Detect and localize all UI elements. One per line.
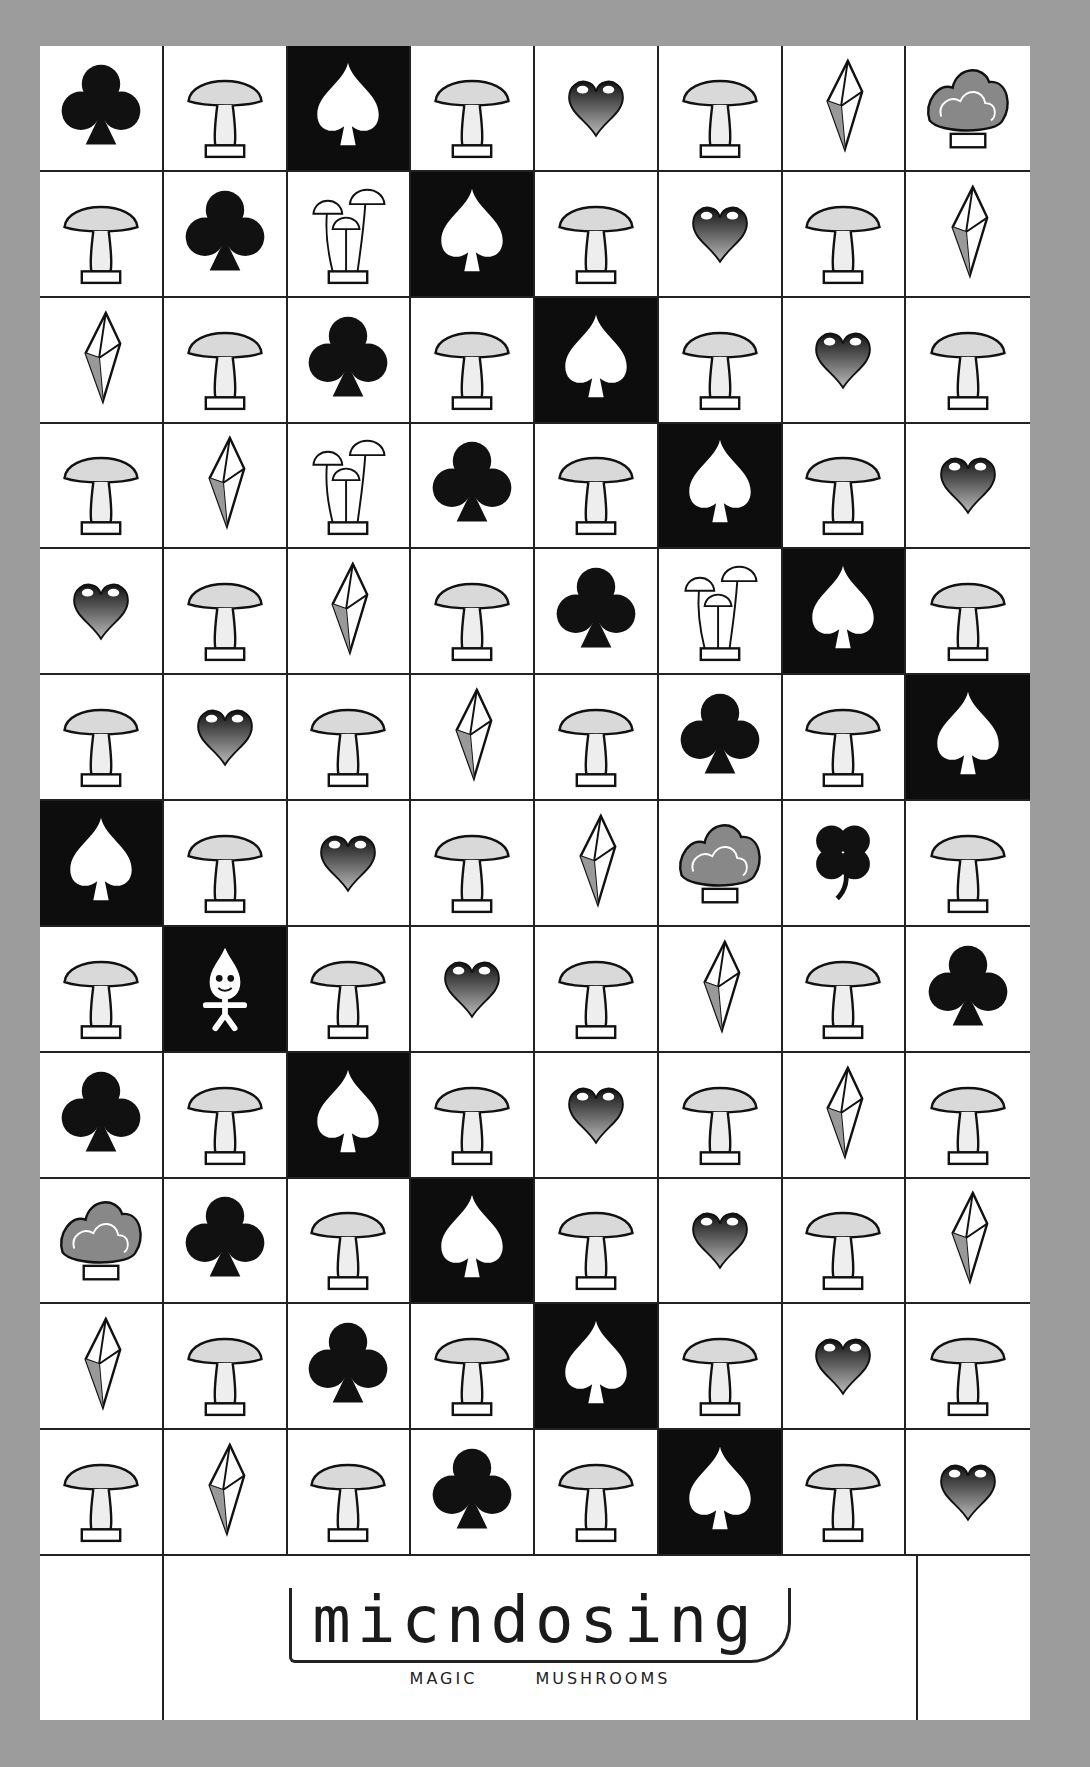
mushroom-icon <box>300 933 396 1045</box>
tile-spade <box>411 172 535 298</box>
tile-heart <box>906 1430 1030 1556</box>
heart-icon <box>300 807 396 919</box>
tile-mushroom <box>783 675 907 801</box>
tile-heart <box>659 1179 783 1305</box>
tile-heart <box>288 801 412 927</box>
tile-doll <box>164 927 288 1053</box>
artwork-paper: micndosing MAGIC MUSHROOMS <box>40 46 1030 1720</box>
tile-heart <box>783 1304 907 1430</box>
tile-spade <box>659 1430 783 1556</box>
tile-mushroom <box>164 549 288 675</box>
mushroom-icon <box>53 429 149 541</box>
mushroom-icon <box>920 304 1016 416</box>
mushroom-cluster-icon <box>300 178 396 290</box>
tile-mushroom <box>783 927 907 1053</box>
mushroom-icon <box>548 681 644 793</box>
tile-mushroom <box>411 1053 535 1179</box>
crystal-icon <box>920 1184 1016 1296</box>
tile-mushroom <box>288 927 412 1053</box>
tile-mushroom-cluster <box>288 172 412 298</box>
club-icon <box>548 555 644 667</box>
tile-mushroom <box>40 675 164 801</box>
tile-club <box>411 424 535 550</box>
heart-icon <box>920 1436 1016 1548</box>
mushroom-icon <box>177 807 273 919</box>
tile-coral <box>659 801 783 927</box>
mushroom-icon <box>424 1059 520 1171</box>
tile-spade <box>659 424 783 550</box>
tile-heart <box>164 675 288 801</box>
tile-club <box>659 675 783 801</box>
heart-icon <box>920 429 1016 541</box>
mushroom-icon <box>795 178 891 290</box>
tile-mushroom-cluster <box>659 549 783 675</box>
mushroom-icon <box>177 304 273 416</box>
footer-right-cell <box>918 1556 1030 1720</box>
crystal-icon <box>300 555 396 667</box>
tile-heart <box>906 424 1030 550</box>
tile-spade <box>411 1179 535 1305</box>
club-icon <box>53 52 149 164</box>
heart-icon <box>795 1310 891 1422</box>
crystal-icon <box>795 52 891 164</box>
mushroom-icon <box>795 681 891 793</box>
tile-mushroom <box>411 46 535 172</box>
mushroom-icon <box>795 1184 891 1296</box>
coral-icon <box>920 52 1016 164</box>
tile-mushroom <box>164 298 288 424</box>
tile-club <box>535 549 659 675</box>
tile-mushroom <box>783 1430 907 1556</box>
mushroom-icon <box>300 681 396 793</box>
mushroom-icon <box>53 178 149 290</box>
spade-icon <box>424 1184 520 1296</box>
spade-icon <box>548 1310 644 1422</box>
heart-icon <box>672 1184 768 1296</box>
tile-mushroom <box>783 1179 907 1305</box>
mushroom-icon <box>424 52 520 164</box>
tile-spade <box>906 675 1030 801</box>
tile-heart <box>783 298 907 424</box>
mushroom-icon <box>920 1310 1016 1422</box>
tile-mushroom <box>906 549 1030 675</box>
crystal-icon <box>177 1436 273 1548</box>
tile-heart <box>535 46 659 172</box>
tile-heart <box>411 927 535 1053</box>
spade-icon <box>672 1436 768 1548</box>
spade-icon <box>548 304 644 416</box>
tile-mushroom <box>411 1304 535 1430</box>
tile-crystal <box>906 1179 1030 1305</box>
footer-left-cell <box>40 1556 164 1720</box>
mushroom-icon <box>795 429 891 541</box>
tile-mushroom <box>411 549 535 675</box>
tile-spade <box>535 298 659 424</box>
spade-icon <box>300 52 396 164</box>
tile-mushroom <box>40 172 164 298</box>
tile-mushroom <box>40 424 164 550</box>
mushroom-icon <box>548 1436 644 1548</box>
mushroom-cluster-icon <box>672 555 768 667</box>
tile-heart <box>535 1053 659 1179</box>
tile-mushroom <box>164 1053 288 1179</box>
spade-icon <box>53 807 149 919</box>
mushroom-icon <box>53 933 149 1045</box>
tile-coral <box>40 1179 164 1305</box>
tile-mushroom <box>783 424 907 550</box>
tile-mushroom <box>659 46 783 172</box>
tile-spade <box>40 801 164 927</box>
tile-mushroom <box>783 172 907 298</box>
tile-heart <box>40 549 164 675</box>
club-icon <box>53 1059 149 1171</box>
title-block: micndosing MAGIC MUSHROOMS <box>164 1556 918 1720</box>
tile-mushroom <box>40 1430 164 1556</box>
mushroom-icon <box>672 1059 768 1171</box>
tile-mushroom <box>906 1053 1030 1179</box>
mushroom-icon <box>548 178 644 290</box>
heart-icon <box>177 681 273 793</box>
tile-mushroom <box>411 801 535 927</box>
tile-crystal <box>164 1430 288 1556</box>
mushroom-icon <box>672 304 768 416</box>
tile-crystal <box>288 549 412 675</box>
mushroom-icon <box>795 933 891 1045</box>
tile-mushroom <box>164 801 288 927</box>
tile-club <box>164 172 288 298</box>
